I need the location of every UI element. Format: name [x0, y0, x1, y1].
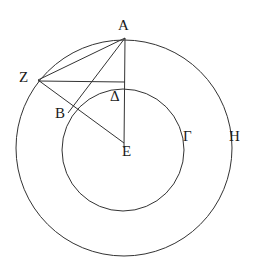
segment-A-Z	[38, 38, 125, 80]
segment-Z-D	[38, 81, 125, 82]
point-label-Gamma: Γ	[183, 129, 192, 144]
point-label-B: Β	[55, 106, 65, 121]
point-label-Delta: Δ	[110, 89, 120, 104]
point-label-Z: Ζ	[19, 70, 28, 85]
point-label-A: Α	[118, 18, 129, 33]
point-label-H: Η	[229, 129, 240, 144]
geometry-canvas	[0, 0, 265, 277]
point-label-E: Ε	[122, 144, 131, 159]
geometry-figure: Α Ζ Δ Β Ε Γ Η	[0, 0, 265, 277]
segment-A-E	[124, 38, 125, 148]
